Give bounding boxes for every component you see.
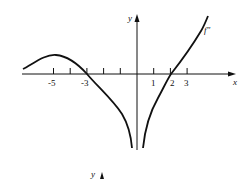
- x-axis-arrow-icon: [228, 72, 236, 77]
- next-figure-y-label: y: [90, 169, 95, 179]
- tick-label-p1: 1: [151, 78, 156, 88]
- curve-label: f″: [204, 25, 211, 35]
- tick-label-p3: 3: [184, 78, 189, 88]
- x-axis-label: x: [232, 77, 237, 87]
- y-axis-label: y: [127, 13, 132, 23]
- y-axis-arrow-icon: [135, 14, 140, 22]
- chart-container: x y -5 -3 1 2 3: [0, 0, 249, 179]
- tick-label-p2: 2: [170, 78, 175, 88]
- next-figure-y-axis-fragment: y: [90, 169, 104, 179]
- next-figure-arrow-icon: [100, 172, 104, 179]
- x-ticks: [54, 68, 188, 74]
- tick-label-m3: -3: [81, 78, 89, 88]
- tick-label-m5: -5: [48, 78, 56, 88]
- curve-left-branch: [23, 55, 132, 148]
